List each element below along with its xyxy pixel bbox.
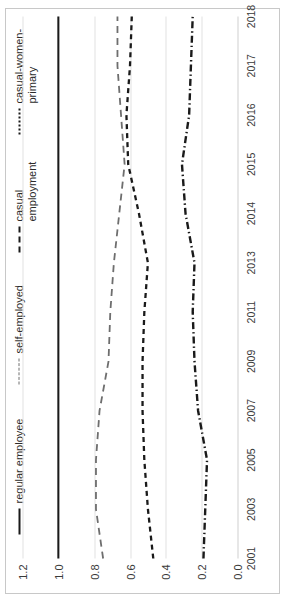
value-tick-label: 0.0 [231,565,243,580]
value-tick-label: 0.4 [159,565,171,580]
category-tick-label: 2014 [244,202,256,225]
category-tick-label: 2015 [244,153,256,176]
category-tick-label: 2007 [244,399,256,422]
line-chart: regular employeeself-employedcasual empl… [6,9,281,595]
series-line [181,17,206,559]
rotated-chart-wrapper: regular employeeself-employedcasual empl… [0,0,287,603]
category-tick-label: 2016 [244,103,256,126]
value-tick-label: 0.2 [195,565,207,580]
plot-area: 0.00.20.40.60.81.01.2 200120032005200720… [22,17,237,559]
category-tick-label: 2001 [244,547,256,570]
category-tick-label: 2013 [244,251,256,274]
category-tick-label: 2018 [244,5,256,28]
value-tick-label: 1.2 [16,565,28,580]
value-tick-label: 0.6 [124,565,136,580]
category-tick-label: 2011 [244,301,256,324]
category-tick-label: 2003 [244,498,256,521]
series-lines [22,17,237,559]
category-tick-label: 2005 [244,448,256,471]
value-tick-label: 0.8 [88,565,100,580]
series-line [126,17,153,559]
value-tick-label: 1.0 [52,565,64,580]
series-line [95,17,124,559]
category-tick-label: 2009 [244,350,256,373]
category-tick-label: 2017 [244,54,256,77]
